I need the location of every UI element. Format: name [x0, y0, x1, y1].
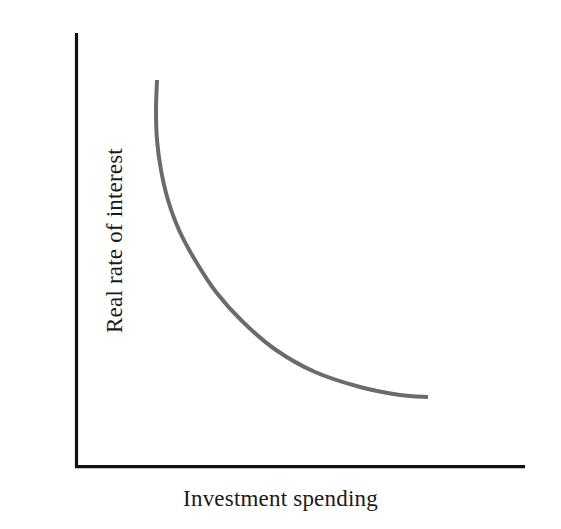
investment-demand-figure: Real rate of interest Investment spendin… — [0, 0, 561, 529]
y-axis-label: Real rate of interest — [103, 148, 126, 333]
y-axis-label-container: Real rate of interest — [0, 0, 90, 480]
x-axis-label: Investment spending — [0, 487, 561, 510]
